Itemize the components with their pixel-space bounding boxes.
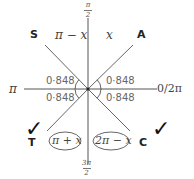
quadrant-letter-c: C [139, 137, 147, 148]
expression-pi-plus-x: π + x [52, 135, 82, 146]
angle-value-top-left: 0·848 [46, 76, 75, 86]
expression-2pi-minus-x: 2π − x [95, 135, 132, 146]
expression-x: x [106, 29, 113, 41]
axis-label-bottom: 3π 2 [82, 160, 91, 177]
axis-top-numerator: π [86, 2, 91, 9]
quadrant-letter-a: A [137, 29, 146, 40]
expression-pi-minus-x: π − x [55, 29, 87, 41]
axis-bottom-denominator: 2 [84, 170, 88, 177]
angle-arc-bottom-right [97, 89, 101, 98]
angle-arc-top-left [75, 80, 79, 89]
origin-dot [86, 87, 89, 90]
quadrant-letter-s: S [30, 29, 38, 40]
angle-value-top-right: 0·848 [106, 76, 135, 86]
axis-bottom-numerator: 3π [82, 160, 91, 167]
check-icon-c: ✓ [152, 118, 170, 140]
axis-label-left: π [9, 83, 17, 95]
angle-value-bottom-right: 0·848 [106, 93, 135, 103]
axis-label-top: π 2 [84, 2, 92, 19]
cast-diagram: π 2 3π 2 π 0/2π S A T C π − x x π + x 2π… [0, 0, 194, 179]
axis-label-right: 0/2π [157, 83, 182, 94]
angle-value-bottom-left: 0·848 [46, 93, 75, 103]
angle-arc-top-right [97, 80, 101, 89]
axis-top-denominator: 2 [86, 12, 90, 19]
angle-arc-bottom-left [75, 89, 79, 98]
check-icon-t: ✓ [25, 118, 43, 140]
